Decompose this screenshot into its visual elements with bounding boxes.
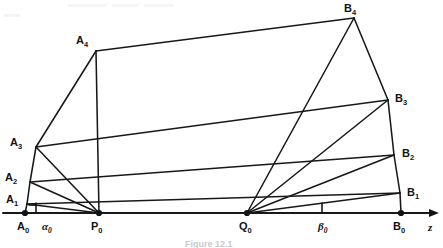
node-dot-Q0 [244, 210, 250, 216]
figure-caption: Figure 12.1 [185, 239, 233, 248]
node-dot-B0 [398, 210, 404, 216]
figure-diagram: A0A1A2A3A4P0Q0B0B1B2B3B4 α0β0 z Figure 1… [0, 0, 443, 248]
figure-background [0, 0, 443, 248]
label-z-axis: z [427, 221, 433, 233]
node-dot-A0 [22, 210, 28, 216]
diagram-canvas: A0A1A2A3A4P0Q0B0B1B2B3B4 α0β0 z Figure 1… [0, 0, 443, 248]
node-dot-P0 [96, 210, 102, 216]
